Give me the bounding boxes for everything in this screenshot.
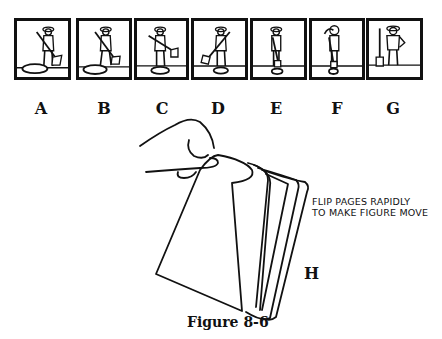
frame-label-h: H bbox=[304, 264, 319, 283]
hand-flipping-book-illustration bbox=[0, 0, 442, 339]
note-line-1: FLIP PAGES RAPIDLY bbox=[312, 196, 428, 207]
note-line-2: TO MAKE FIGURE MOVE bbox=[312, 207, 428, 218]
figure-caption: Figure 8-6 bbox=[187, 314, 269, 330]
flip-instruction-note: FLIP PAGES RAPIDLY TO MAKE FIGURE MOVE bbox=[312, 196, 428, 218]
hand-icon bbox=[140, 120, 214, 148]
